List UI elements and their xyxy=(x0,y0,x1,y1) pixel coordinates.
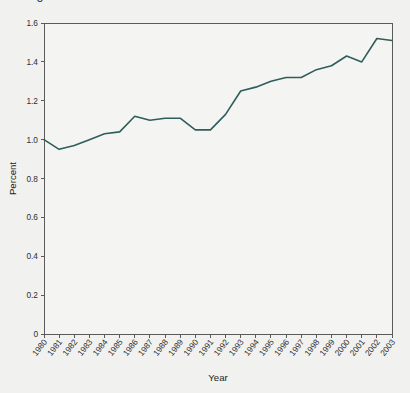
y-tick-label: 1.2 xyxy=(26,96,38,106)
y-tick-label: 0.4 xyxy=(26,251,38,261)
x-tick-label: 1987 xyxy=(136,337,155,358)
x-tick-label: 1999 xyxy=(317,337,336,358)
plot-area xyxy=(44,23,392,334)
x-axis-label: Year xyxy=(208,372,228,383)
x-tick-label: 1982 xyxy=(60,337,79,358)
x-tick-label: 2000 xyxy=(332,337,351,358)
y-tick-label: 0.8 xyxy=(26,174,38,184)
x-tick-label: 1981 xyxy=(45,337,64,358)
x-tick-label: 2002 xyxy=(363,337,382,358)
figure-title: Figure 1. Percent ... xyxy=(26,0,138,2)
x-tick-label: 1988 xyxy=(151,337,170,358)
x-tick-label: 1991 xyxy=(196,337,215,358)
y-axis-label: Percent xyxy=(7,162,18,195)
y-tick-label: 0 xyxy=(33,329,38,339)
x-tick-label: 1984 xyxy=(90,337,109,358)
x-tick-label: 1985 xyxy=(105,337,124,358)
line-chart: 00.20.40.60.81.01.21.41.6 19801981198219… xyxy=(0,0,410,393)
y-axis-ticks: 00.20.40.60.81.01.21.41.6 xyxy=(26,18,44,339)
x-tick-label: 2001 xyxy=(348,337,367,358)
y-tick-label: 0.6 xyxy=(26,212,38,222)
x-tick-label: 1993 xyxy=(227,337,246,358)
y-tick-label: 1.4 xyxy=(26,57,38,67)
x-tick-label: 1994 xyxy=(242,337,261,358)
x-axis-ticks: 1980198119821983198419851986198719881989… xyxy=(30,334,397,358)
x-tick-label: 1995 xyxy=(257,337,276,358)
x-tick-label: 1992 xyxy=(211,337,230,358)
y-tick-label: 1.0 xyxy=(26,135,38,145)
y-tick-label: 0.2 xyxy=(26,290,38,300)
x-tick-label: 1997 xyxy=(287,337,306,358)
x-tick-label: 1986 xyxy=(121,337,140,358)
x-tick-label: 1989 xyxy=(166,337,185,358)
x-tick-label: 1983 xyxy=(75,337,94,358)
x-tick-label: 1980 xyxy=(30,337,49,358)
x-tick-label: 2003 xyxy=(378,337,397,358)
chart-figure: Figure 1. Percent ... 00.20.40.60.81.01.… xyxy=(0,0,410,393)
y-tick-label: 1.6 xyxy=(26,18,38,28)
x-tick-label: 1990 xyxy=(181,337,200,358)
x-tick-label: 1996 xyxy=(272,337,291,358)
x-tick-label: 1998 xyxy=(302,337,321,358)
